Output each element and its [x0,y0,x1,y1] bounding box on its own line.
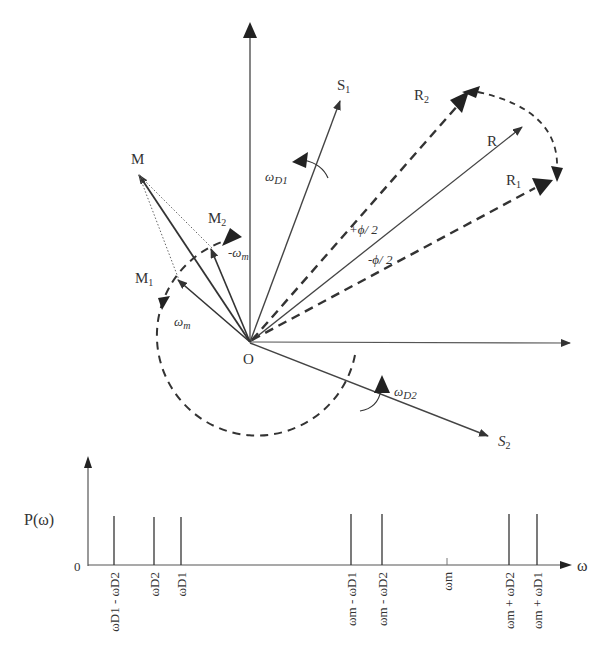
r1-arrow-icon [532,178,553,196]
rotation-arrow-icon [374,375,390,393]
label-omega-d1: ωD1 [265,169,288,186]
label-plus-phi-half: +ϕ/ 2 [349,222,378,237]
horizontal-axis [250,342,570,343]
label-m1: M1 [135,270,153,288]
omega-d1-rotation-arc [304,160,328,178]
tick-label: ωm - ωD1 [344,572,359,626]
vertical-axis [243,22,257,340]
construction-line [139,175,212,248]
tick-label: ωD2 [147,572,162,596]
label-m2: M2 [208,210,226,228]
vector-m2 [211,249,250,342]
circle-arrow-icon [222,228,242,246]
tick-label: ωm + ωD1 [530,572,545,629]
circle-arrow-icon [158,296,170,310]
label-s2: S2 [498,433,511,451]
label-minus-phi-half: -ϕ/ 2 [368,252,393,267]
vector-s2 [250,343,488,436]
label-r: R [487,133,497,149]
tick-label: ωD1 [174,572,189,596]
x-axis-label: ω [577,557,588,574]
tick-label: ωD1 - ωD2 [107,572,122,632]
label-m: M [131,151,144,167]
figure-canvas: S1 S2 R R2 R1 M M2 M1 O +ϕ/ 2 -ϕ/ 2 ωD1 … [0,0,611,664]
label-minus-omega-m: -ωm [228,245,249,262]
label-r2: R2 [414,87,429,105]
arc-arrow-icon [551,166,563,182]
y-origin-label: 0 [74,559,81,574]
x-axis-arrow-icon [560,561,572,569]
rotation-arrow-icon [292,152,308,168]
label-origin: O [243,351,254,367]
y-axis-arrow-icon [84,456,92,468]
label-s1: S1 [337,77,350,95]
phasor-diagram: S1 S2 R R2 R1 M M2 M1 O +ϕ/ 2 -ϕ/ 2 ωD1 … [131,22,570,451]
tick-label: ωm + ωD2 [502,572,517,629]
vector-r1 [252,188,535,340]
phasor-and-spectrum-figure: S1 S2 R R2 R1 M M2 M1 O +ϕ/ 2 -ϕ/ 2 ωD1 … [0,0,611,664]
label-omega-m: ωm [174,314,190,331]
tick-label: ωm - ωD2 [375,572,390,626]
axis-arrow-icon [243,22,257,38]
label-omega-d2: ωD2 [394,384,417,401]
y-axis-label: P(ω) [24,511,54,529]
tick-label: ωm [440,572,455,591]
power-spectrum-chart: P(ω) 0 ω ωD1 - ωD2 ωD2 ωD1 ωm - ωD1 ωm -… [24,456,588,632]
label-r1: R1 [506,172,521,190]
